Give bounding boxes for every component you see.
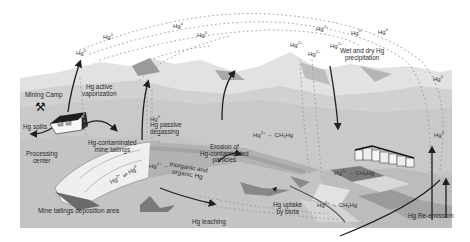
hg2-label: Hg2+	[316, 24, 328, 32]
methylation-label-lower: Hg2+ → CH3Hg	[317, 200, 357, 209]
hg0-label: Hg0	[378, 27, 388, 35]
methylation-label: Hg2+ → CH3Hg	[253, 130, 293, 139]
mercury-cycle-diagram: Hg0 Hg0 Hg0 Hg0 Hg2+ Hg2+ Hg2+ Hg2+ Hg0 …	[0, 0, 470, 242]
hg0-label: Hg0	[76, 48, 86, 56]
tailings-deposition-label: Mine tailings deposition area	[38, 208, 119, 215]
hg0-label: Hg0	[351, 28, 361, 36]
reemission-label: Hg Re-emission	[408, 213, 453, 220]
landscape-illustration	[0, 0, 470, 242]
hg0-label: Hg0	[197, 30, 207, 38]
erosion-label: Erosion of Hg-contaminated particles	[200, 144, 249, 164]
mining-camp-label: Mining Camp	[25, 92, 63, 99]
methylation-label-fields: Hg2+ → CH3Hg	[334, 168, 374, 177]
precipitation-label: Wet and dry Hg precipitation	[340, 48, 384, 61]
passive-degassing-label: Hg passive degassing	[150, 122, 182, 135]
pickaxes-icon: ⚒	[35, 100, 46, 114]
hg0-label: Hg0	[103, 32, 113, 40]
contaminated-tailings-label: Hg-contaminated mine tailings	[88, 140, 137, 153]
hg0-label: Hg0	[173, 21, 183, 29]
hg2-to-inorganic-label: Hg2+ →	[149, 161, 169, 169]
biota-uptake-label: Hg uptake by biota	[273, 202, 302, 215]
leaching-label: Hg leaching	[192, 219, 226, 226]
active-vaporization-label: Hg active vaporization	[82, 84, 116, 97]
hg0-label: Hg0	[434, 130, 444, 138]
hg-spills-label: Hg spills	[23, 124, 47, 131]
hg0-label: Hg0	[433, 74, 443, 82]
hg2-label: Hg2+	[290, 40, 302, 48]
hg2-label: Hg2+	[308, 49, 320, 57]
processing-center-label: Processing center	[26, 151, 58, 164]
